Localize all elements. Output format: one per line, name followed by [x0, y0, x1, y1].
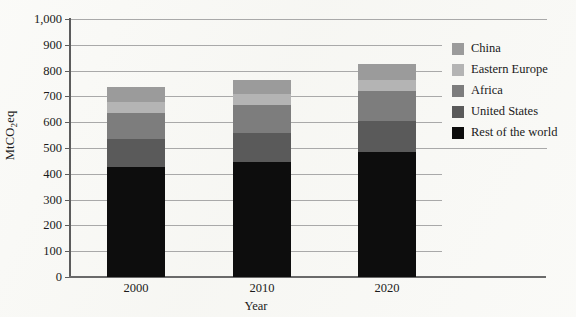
- x-axis-tick-label-2010: 2010: [222, 282, 302, 295]
- bar-2020[interactable]: [358, 64, 416, 277]
- y-axis-title: MtCO2eq: [3, 111, 18, 161]
- legend-swatch-icon: [452, 85, 464, 97]
- legend-label: Africa: [471, 84, 503, 97]
- plot-area: [70, 19, 442, 277]
- legend-swatch-icon: [452, 64, 464, 76]
- legend-swatch-icon: [452, 43, 464, 55]
- y-axis-tick-label: 200: [10, 219, 62, 232]
- y-axis-title-suffix: eq: [3, 111, 17, 123]
- bar-segment[interactable]: [358, 121, 416, 152]
- y-axis-title-text: MtCO: [3, 128, 17, 161]
- bar-segment[interactable]: [107, 139, 165, 167]
- y-axis-title-subscript: 2: [9, 123, 19, 128]
- bar-segment[interactable]: [107, 102, 165, 114]
- bar-2010[interactable]: [233, 80, 291, 277]
- bar-segment[interactable]: [233, 162, 291, 277]
- x-axis-title: Year: [0, 300, 512, 313]
- bar-segment[interactable]: [107, 87, 165, 101]
- bar-segment[interactable]: [107, 113, 165, 139]
- legend-item[interactable]: China: [452, 38, 557, 59]
- y-axis-tick-label: 800: [10, 65, 62, 78]
- y-axis-tick-label: 300: [10, 194, 62, 207]
- legend-swatch-icon: [452, 127, 464, 139]
- chart-page: 01002003004005006007008009001,000 MtCO2e…: [0, 0, 576, 317]
- y-axis-tick-label: 0: [10, 271, 62, 284]
- y-axis-tick-label: 900: [10, 39, 62, 52]
- y-axis-tick-label: 1,000: [10, 13, 62, 26]
- bar-segment[interactable]: [233, 133, 291, 163]
- bar-segment[interactable]: [358, 80, 416, 92]
- legend-label: United States: [471, 105, 538, 118]
- legend-label: Rest of the world: [471, 126, 557, 139]
- x-axis-tick-label-2020: 2020: [347, 282, 427, 295]
- legend-label: China: [471, 42, 501, 55]
- legend: ChinaEastern EuropeAfricaUnited StatesRe…: [452, 38, 557, 143]
- bar-segment[interactable]: [233, 94, 291, 106]
- legend-label: Eastern Europe: [471, 63, 548, 76]
- legend-swatch-icon: [452, 106, 464, 118]
- bar-segment[interactable]: [358, 152, 416, 277]
- bar-segment[interactable]: [358, 91, 416, 121]
- legend-item[interactable]: Africa: [452, 80, 557, 101]
- y-axis-tick-label: 400: [10, 168, 62, 181]
- y-axis-tick-label: 700: [10, 90, 62, 103]
- bar-segment[interactable]: [107, 167, 165, 277]
- bar-segment[interactable]: [233, 80, 291, 94]
- legend-item[interactable]: Eastern Europe: [452, 59, 557, 80]
- bar-segment[interactable]: [233, 105, 291, 132]
- legend-item[interactable]: United States: [452, 101, 557, 122]
- bar-segment[interactable]: [358, 64, 416, 79]
- y-axis-tick-label: 100: [10, 245, 62, 258]
- legend-item[interactable]: Rest of the world: [452, 122, 557, 143]
- x-axis-tick-label-2000: 2000: [96, 282, 176, 295]
- bar-2000[interactable]: [107, 87, 165, 277]
